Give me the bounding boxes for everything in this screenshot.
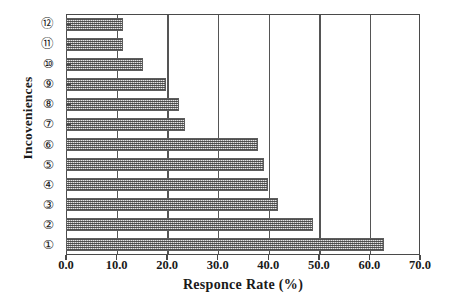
bar-group (66, 135, 258, 155)
x-tick-mark-60.0 (369, 255, 370, 260)
y-tick-mark-5 (66, 165, 71, 166)
y-tick-label-11: ⑪ (26, 37, 54, 51)
bar-① (66, 238, 384, 251)
x-tick-label-30.0: 30.0 (195, 258, 241, 273)
y-tick-mark-1 (66, 245, 71, 246)
x-tick-mark-50.0 (318, 255, 319, 260)
bar-group (66, 94, 179, 114)
y-tick-label-8: ⑧ (26, 97, 54, 111)
bar-chart: Incoveniences ①②③④⑤⑥⑦⑧⑨⑩⑪⑫ 0.010.020.030… (0, 0, 449, 307)
bar-⑧ (66, 98, 179, 111)
y-tick-mark-11 (66, 44, 71, 45)
y-tick-mark-8 (66, 104, 71, 105)
x-tick-mark-30.0 (217, 255, 218, 260)
bars-layer (66, 14, 420, 255)
bar-⑦ (66, 118, 185, 131)
x-axis-title: Responce Rate (%) (66, 277, 420, 293)
y-tick-mark-10 (66, 64, 71, 65)
x-tick-label-60.0: 60.0 (346, 258, 392, 273)
x-tick-mark-70.0 (419, 255, 420, 260)
bar-group (66, 114, 185, 134)
bar-group (66, 14, 123, 34)
y-tick-label-1: ① (26, 238, 54, 252)
bar-group (66, 34, 123, 54)
bar-group (66, 175, 268, 195)
x-tick-mark-10.0 (116, 255, 117, 260)
bar-⑤ (66, 158, 264, 171)
bar-group (66, 195, 278, 215)
bar-group (66, 54, 143, 74)
bar-⑪ (66, 38, 123, 51)
bar-② (66, 218, 313, 231)
y-tick-mark-12 (66, 24, 71, 25)
bar-group (66, 215, 313, 235)
y-tick-mark-9 (66, 84, 71, 85)
bar-⑨ (66, 78, 166, 91)
y-tick-mark-7 (66, 124, 71, 125)
x-tick-label-10.0: 10.0 (94, 258, 140, 273)
y-tick-label-9: ⑨ (26, 77, 54, 91)
y-tick-label-2: ② (26, 218, 54, 232)
bar-group (66, 155, 264, 175)
x-tick-label-0.0: 0.0 (43, 258, 89, 273)
x-tick-label-20.0: 20.0 (144, 258, 190, 273)
bar-group (66, 235, 384, 255)
y-tick-label-5: ⑤ (26, 158, 54, 172)
bar-⑩ (66, 58, 143, 71)
y-tick-label-7: ⑦ (26, 117, 54, 131)
bar-group (66, 74, 166, 94)
bar-⑥ (66, 138, 258, 151)
x-tick-mark-20.0 (166, 255, 167, 260)
y-axis-tick-labels: ①②③④⑤⑥⑦⑧⑨⑩⑪⑫ (26, 14, 60, 255)
y-tick-label-6: ⑥ (26, 138, 54, 152)
x-tick-label-70.0: 70.0 (397, 258, 443, 273)
bar-④ (66, 178, 268, 191)
x-tick-label-50.0: 50.0 (296, 258, 342, 273)
x-tick-label-40.0: 40.0 (245, 258, 291, 273)
bar-⑫ (66, 18, 123, 31)
bar-③ (66, 198, 278, 211)
y-tick-mark-4 (66, 185, 71, 186)
x-tick-mark-40.0 (268, 255, 269, 260)
y-tick-label-10: ⑩ (26, 57, 54, 71)
y-tick-mark-3 (66, 205, 71, 206)
x-tick-mark-0.0 (65, 255, 66, 260)
y-tick-mark-2 (66, 225, 71, 226)
y-tick-label-12: ⑫ (26, 17, 54, 31)
x-axis-tick-labels: 0.010.020.030.040.050.060.070.0 (0, 258, 449, 276)
y-tick-mark-6 (66, 145, 71, 146)
y-tick-label-4: ④ (26, 178, 54, 192)
y-tick-label-3: ③ (26, 198, 54, 212)
